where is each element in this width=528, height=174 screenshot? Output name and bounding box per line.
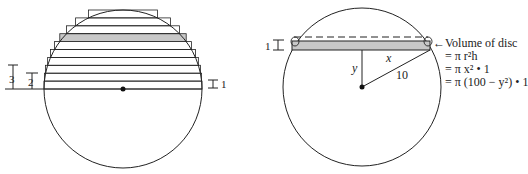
slab — [46, 65, 201, 73]
right-center-dot — [360, 85, 365, 90]
slab-stack — [44, 10, 202, 89]
annotation-line-2: = π r²h — [445, 49, 477, 63]
arrow-icon: ← — [433, 36, 445, 50]
slab — [48, 57, 199, 65]
slab — [67, 26, 180, 34]
bracket-1 — [208, 80, 218, 88]
disc — [291, 37, 432, 50]
annotation-line-3: = π x² • 1 — [445, 62, 490, 76]
label-3: 3 — [9, 73, 15, 85]
annotation-line-1: Volume of disc — [445, 36, 517, 50]
label-2: 2 — [28, 76, 34, 88]
slab — [60, 34, 186, 42]
label-1: 1 — [221, 78, 227, 90]
disc-band — [292, 41, 430, 50]
left-center-dot — [121, 87, 126, 92]
thickness-label: 1 — [265, 40, 271, 52]
right-figure: 1 x y 10 ← Volume of disc = π r²h = π x²… — [265, 8, 528, 166]
left-figure: 3 2 1 — [5, 10, 227, 168]
y-label: y — [351, 61, 358, 75]
slab — [76, 18, 171, 26]
annotation-line-4: = π (100 − y²) • 1 — [445, 75, 528, 89]
diagram-canvas: 3 2 1 1 — [0, 0, 528, 174]
slab — [44, 73, 201, 81]
slab — [51, 50, 196, 58]
slab — [55, 42, 192, 50]
thickness-bracket — [273, 40, 284, 50]
radius-label: 10 — [396, 68, 408, 82]
x-label: x — [385, 51, 392, 65]
